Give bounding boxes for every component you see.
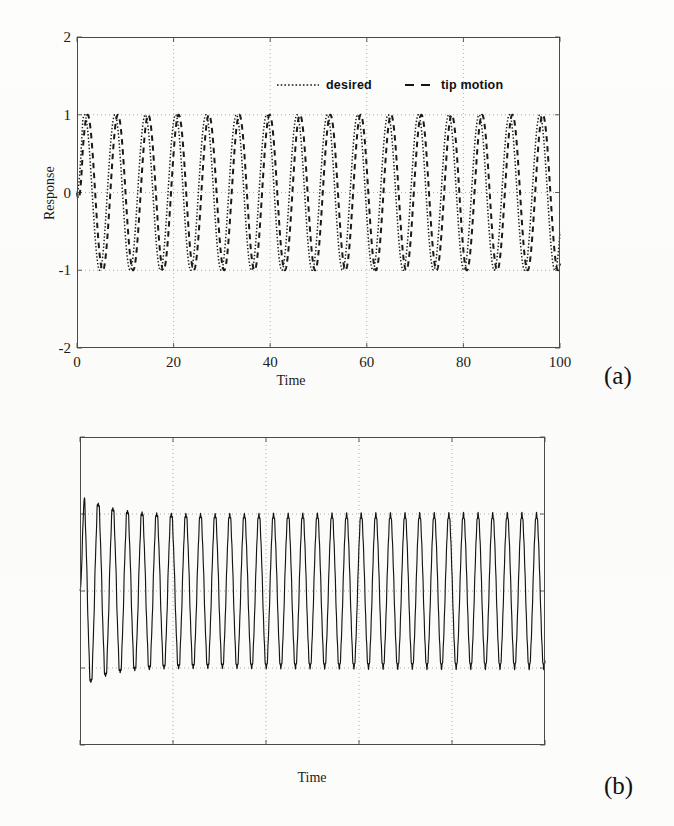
plot-area-b <box>80 437 545 745</box>
figure-panel-b: -0.04-0.0200.020.04 020406080100 Tip def… <box>0 410 674 826</box>
dashed-line-icon <box>404 80 434 90</box>
panel-caption-a: (a) <box>604 362 632 390</box>
x-tick-label: 80 <box>456 355 471 370</box>
y-tick-label: -2 <box>31 341 71 356</box>
x-tick-label: 20 <box>166 355 181 370</box>
legend-label-desired: desired <box>326 78 372 92</box>
y-tick-label: -1 <box>31 263 71 278</box>
panel-caption-b: (b) <box>604 772 633 800</box>
x-axis-title-a: Time <box>276 373 305 389</box>
legend-a: desired tip motion <box>277 78 503 92</box>
y-tick-label: 2 <box>31 30 71 45</box>
y-axis-title-a: Response <box>42 166 58 220</box>
x-tick-label: 0 <box>73 355 81 370</box>
plot-frame-b <box>80 437 545 745</box>
legend-label-tip-motion: tip motion <box>441 78 503 92</box>
figure-panel-a: -2-1012 020406080100 Response Time desir… <box>0 0 674 420</box>
dotted-line-icon <box>277 80 319 90</box>
legend-entry-tip-motion: tip motion <box>404 78 503 92</box>
figure-page: -2-1012 020406080100 Response Time desir… <box>0 0 674 826</box>
x-tick-label: 60 <box>359 355 374 370</box>
legend-entry-desired: desired <box>277 78 372 92</box>
y-tick-label: 1 <box>31 107 71 122</box>
x-tick-label: 100 <box>549 355 572 370</box>
x-axis-title-b: Time <box>297 770 326 786</box>
x-tick-label: 40 <box>263 355 278 370</box>
